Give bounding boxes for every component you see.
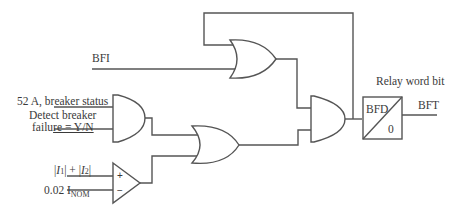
comparator-minus-sign: − (117, 185, 123, 196)
detect-failure-label-part-b: re = Y/N (53, 121, 94, 133)
current-sum-operator: | + | (64, 164, 81, 176)
comparator-output-wire (140, 156, 200, 183)
comparator-icon (113, 163, 140, 203)
or1-output-wire (276, 59, 312, 108)
abs-bar-2: | (89, 164, 91, 176)
detect-failure-label-line2: failure = Y/N (32, 122, 94, 134)
and-gate-breaker-status-icon (113, 95, 145, 142)
bfi-label: BFI (92, 53, 110, 65)
detect-failure-label-line1: Detect breaker (29, 110, 96, 122)
or2-output-wire (239, 130, 312, 145)
breaker-status-label: 52 A, breaker status (17, 96, 108, 108)
bfd-label: BFD (366, 103, 388, 115)
detect-failure-label-part-a: failu (32, 121, 53, 133)
bfd-value: 0 (388, 123, 394, 135)
comparator-plus-sign: + (117, 170, 123, 181)
current-sum-label: |I1| + |I2| (54, 165, 91, 177)
threshold-label: 0.02 INOM (44, 185, 90, 197)
breaker-failure-logic-diagram: + − BFD 0 BFI 52 A, breaker status Detec… (0, 0, 451, 217)
threshold-subscript: NOM (71, 190, 90, 199)
relay-word-bit-caption: Relay word bit (376, 76, 444, 88)
bft-output-label: BFT (418, 100, 439, 112)
or-gate-status-current-icon (192, 126, 239, 164)
or-gate-bfi-latch-icon (230, 40, 276, 78)
threshold-value: 0.02 I (44, 184, 71, 196)
and-gate-final-icon (311, 96, 345, 142)
